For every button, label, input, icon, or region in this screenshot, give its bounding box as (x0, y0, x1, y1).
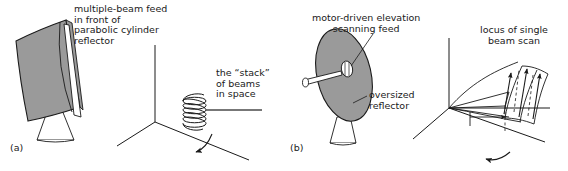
panel-b-antenna (303, 23, 381, 145)
caption-motor-driven-feed: motor-driven elevation scanning feed (312, 13, 420, 34)
locus-bottom-link (505, 118, 534, 124)
azimuth-rotation-arrow (486, 152, 510, 160)
beam-upper-sweep (449, 62, 518, 108)
caption-beam-stack: the “stack” of beams in space (216, 68, 270, 100)
axis-left (413, 108, 449, 139)
beam-lower-sweep (449, 108, 521, 122)
beam-edge-top (449, 92, 509, 108)
panel-b-axes (413, 38, 550, 142)
caption-multiple-beam-feed: multiple-beam feed in front of parabolic… (74, 4, 167, 46)
panel-label-a: (a) (10, 142, 23, 153)
pedestal-base (37, 140, 74, 142)
figure-container: multiple-beam feed in front of parabolic… (0, 0, 568, 171)
dash-line-1 (514, 70, 519, 112)
azimuth-rotation-arrow (196, 134, 212, 152)
axis-left (117, 122, 155, 146)
arm-end-cap (303, 78, 309, 87)
caption-oversized-reflector: oversized reflector (369, 90, 415, 111)
axis-right (155, 122, 249, 160)
helix-coils (183, 97, 206, 127)
panel-a-antenna (16, 20, 83, 142)
scanned-beam-fan (449, 62, 521, 122)
pedestal-base (330, 143, 356, 145)
axis-ground-trace (449, 108, 545, 142)
caption-locus-beam-scan: locus of single beam scan (480, 25, 548, 46)
beam-stack-helix (183, 94, 206, 130)
dash-line-2 (528, 75, 533, 116)
panel-label-b: (b) (290, 142, 303, 153)
